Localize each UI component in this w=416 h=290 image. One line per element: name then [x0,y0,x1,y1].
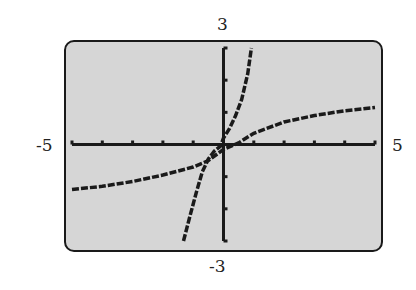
graph-plot [0,0,416,290]
